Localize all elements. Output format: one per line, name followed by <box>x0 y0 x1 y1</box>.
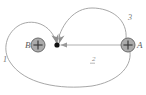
path-3-label: 3 <box>127 13 132 22</box>
field-point <box>54 42 59 47</box>
path-3-curve <box>58 8 126 40</box>
charge-b <box>31 38 45 52</box>
figure-canvas: B A 1 2 3 <box>0 0 146 95</box>
charge-a-label: A <box>136 40 143 50</box>
arrowhead-path-3-icon <box>59 34 65 45</box>
path-1-label: 1 <box>3 55 7 64</box>
arrowhead-path-2-icon <box>61 42 68 47</box>
path-2-label: 2 <box>92 55 96 63</box>
charge-a <box>121 38 135 52</box>
charge-b-label: B <box>25 40 31 50</box>
path-1-curve <box>6 22 130 87</box>
physics-figure: B A 1 2 3 <box>0 0 146 95</box>
